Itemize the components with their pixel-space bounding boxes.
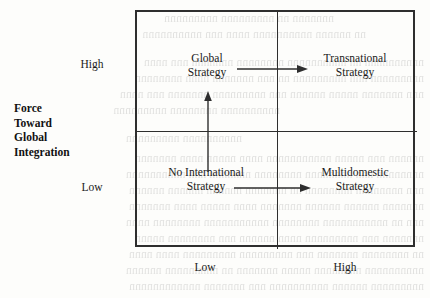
quadrant-label-transnational-strategy: Transnational Strategy	[300, 52, 410, 79]
arrow-right-to-transnational-strategy	[236, 61, 312, 77]
y-axis-title-line-1: Force	[14, 101, 70, 116]
quadrant-transnational-line-1: Transnational	[300, 52, 410, 66]
quadrant-multidomestic-line-1: Multidomestic	[300, 166, 410, 180]
y-axis-title-line-2: Toward	[14, 116, 70, 131]
y-axis-title-line-4: Integration	[14, 145, 70, 160]
y-axis-title-line-3: Global	[14, 130, 70, 145]
y-axis-tick-high: High	[72, 58, 112, 70]
horizontal-divider	[137, 131, 417, 132]
arrow-right-to-multidomestic-strategy	[233, 180, 315, 196]
arrow-up-to-global-strategy	[196, 88, 220, 174]
y-axis-tick-low: Low	[72, 181, 112, 193]
quadrant-transnational-line-2: Strategy	[300, 66, 410, 80]
quadrant-multidomestic-line-2: Strategy	[300, 180, 410, 194]
x-axis-tick-high: High	[325, 261, 365, 273]
x-axis-tick-low: Low	[185, 261, 225, 273]
quadrant-label-multidomestic-strategy: Multidomestic Strategy	[300, 166, 410, 193]
strategy-matrix	[135, 10, 415, 247]
y-axis-title: Force Toward Global Integration	[14, 101, 70, 159]
